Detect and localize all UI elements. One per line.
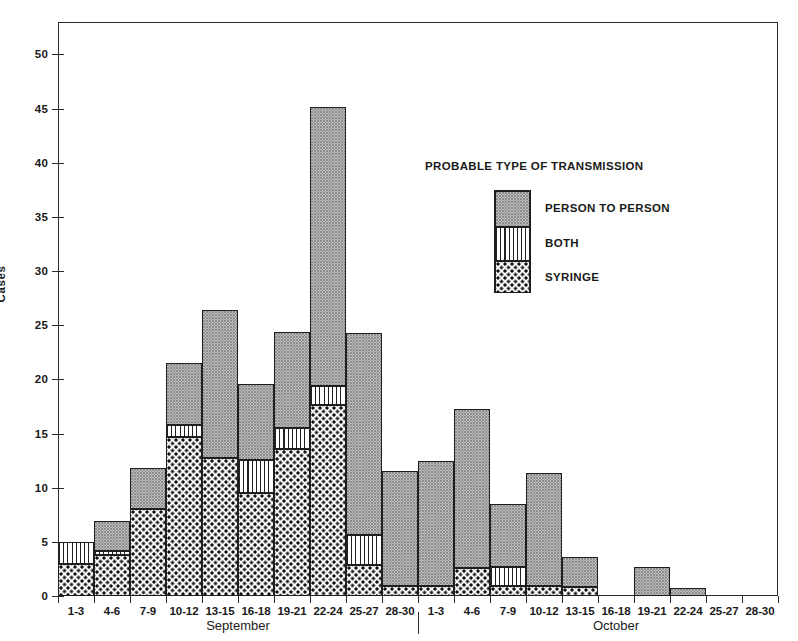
- bar-22-24: [310, 106, 346, 596]
- bar-1-3: [418, 461, 454, 596]
- x-tick-mark: [310, 596, 311, 603]
- y-tick-label: 25: [35, 319, 48, 331]
- month-label-october: October: [593, 618, 639, 633]
- bar-7-9: [130, 468, 166, 596]
- y-tick-label: 5: [41, 536, 48, 548]
- y-tick-label: 0: [41, 590, 48, 602]
- x-tick-label: 4-6: [104, 605, 120, 617]
- x-tick-mark: [274, 596, 275, 603]
- x-tick-mark: [454, 596, 455, 603]
- x-tick-mark: [58, 596, 59, 603]
- month-label-september: September: [206, 618, 270, 633]
- bar-25-27: [346, 333, 382, 596]
- bar-13-15: [202, 310, 238, 596]
- x-tick-mark: [166, 596, 167, 603]
- x-tick-mark: [742, 596, 743, 603]
- bar-segment-syringe: [130, 509, 166, 596]
- x-tick-label: 16-18: [242, 605, 271, 617]
- x-tick-mark: [778, 596, 779, 603]
- y-tick-label: 45: [35, 103, 48, 115]
- bar-segment-person: [382, 471, 418, 586]
- legend-label-both: BOTH: [545, 237, 579, 249]
- y-tick-label: 30: [35, 265, 48, 277]
- bar-segment-both: [166, 425, 202, 437]
- bar-segment-syringe: [382, 586, 418, 596]
- y-axis: 05101520253035404550: [0, 0, 58, 641]
- bar-segment-syringe: [202, 458, 238, 596]
- x-tick-mark: [94, 596, 95, 603]
- bar-10-12: [526, 473, 562, 596]
- x-tick-label: 19-21: [638, 605, 667, 617]
- bar-28-30: [382, 471, 418, 596]
- bar-4-6: [454, 409, 490, 596]
- bar-segment-person: [346, 333, 382, 536]
- bar-segment-syringe: [418, 586, 454, 596]
- x-tick-mark: [526, 596, 527, 603]
- bar-7-9: [490, 504, 526, 596]
- bar-segment-person: [562, 557, 598, 587]
- legend-swatch-syringe: [495, 261, 530, 293]
- legend-swatch: [494, 190, 531, 293]
- y-tick-label: 10: [35, 482, 48, 494]
- bar-segment-person: [418, 461, 454, 587]
- x-tick-mark: [238, 596, 239, 603]
- x-tick-label: 28-30: [746, 605, 775, 617]
- y-tick-label: 35: [35, 211, 48, 223]
- x-tick-label: 22-24: [674, 605, 703, 617]
- x-tick-label: 10-12: [170, 605, 199, 617]
- x-tick-label: 4-6: [464, 605, 480, 617]
- bar-19-21: [274, 332, 310, 596]
- x-tick-label: 25-27: [350, 605, 379, 617]
- bar-segment-syringe: [238, 493, 274, 596]
- legend-title: PROBABLE TYPE OF TRANSMISSION: [425, 160, 643, 172]
- x-tick-mark: [382, 596, 383, 603]
- bar-segment-person: [166, 363, 202, 425]
- x-tick-label: 22-24: [314, 605, 343, 617]
- x-tick-label: 19-21: [278, 605, 307, 617]
- legend-swatch-both: [495, 227, 530, 261]
- x-tick-label: 1-3: [68, 605, 84, 617]
- bar-10-12: [166, 363, 202, 596]
- bar-segment-syringe: [58, 564, 94, 596]
- x-tick-mark: [562, 596, 563, 603]
- x-tick-label: 10-12: [530, 605, 559, 617]
- x-tick-label: 16-18: [602, 605, 631, 617]
- y-axis-label: Cases: [0, 266, 7, 319]
- bar-4-6: [94, 521, 130, 596]
- bar-segment-both: [238, 460, 274, 494]
- legend-label-person-to-person: PERSON TO PERSON: [545, 202, 670, 214]
- y-tick-label: 20: [35, 373, 48, 385]
- bar-segment-syringe: [166, 437, 202, 596]
- x-tick-mark: [130, 596, 131, 603]
- legend-swatch-person-to-person: [495, 191, 530, 227]
- x-tick-mark: [490, 596, 491, 603]
- chart-figure: 05101520253035404550 Cases 1-34-67-910-1…: [0, 0, 798, 641]
- month-separator: [418, 612, 419, 634]
- bar-series-layer: [58, 22, 778, 596]
- bar-13-15: [562, 557, 598, 596]
- x-tick-label: 13-15: [566, 605, 595, 617]
- bar-segment-person: [670, 588, 706, 596]
- x-tick-mark: [670, 596, 671, 603]
- x-tick-mark: [418, 596, 419, 603]
- bar-segment-person: [130, 468, 166, 509]
- bar-segment-both: [58, 542, 94, 564]
- bar-segment-person: [526, 473, 562, 587]
- x-tick-label: 25-27: [710, 605, 739, 617]
- bar-segment-syringe: [94, 555, 130, 596]
- legend-label-syringe: SYRINGE: [545, 271, 599, 283]
- x-tick-label: 1-3: [428, 605, 444, 617]
- x-tick-mark: [202, 596, 203, 603]
- x-tick-mark: [598, 596, 599, 603]
- x-tick-mark: [706, 596, 707, 603]
- bar-segment-syringe: [274, 449, 310, 596]
- y-tick-label: 50: [35, 48, 48, 60]
- bar-segment-person: [454, 409, 490, 568]
- bar-segment-person: [202, 310, 238, 458]
- bar-segment-both: [310, 386, 346, 405]
- bar-16-18: [238, 384, 274, 596]
- y-tick-label: 15: [35, 428, 48, 440]
- bar-22-24: [670, 588, 706, 596]
- x-tick-mark: [634, 596, 635, 603]
- bar-segment-person: [238, 384, 274, 460]
